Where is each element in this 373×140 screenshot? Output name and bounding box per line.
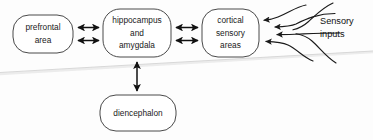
node-cortical-sensory-areas[interactable]: cortical sensory areas: [202, 9, 259, 57]
node-prefrontal-area-label-line2: area: [35, 35, 52, 45]
sensory-input-arrow-1: [264, 5, 306, 20]
sensory-inputs-caption-line1: Sensory: [320, 16, 354, 26]
node-cortical-sensory-areas-label-line3: areas: [220, 40, 241, 50]
diagram-canvas: prefrontal area hippocampus and amygdala…: [0, 0, 373, 140]
node-diencephalon[interactable]: diencephalon: [100, 95, 176, 131]
diagram-svg: prefrontal area hippocampus and amygdala…: [0, 0, 373, 140]
sensory-inputs-caption: Sensory inputs: [320, 16, 354, 39]
node-hippocampus-amygdala-label-line1: hippocampus: [112, 15, 161, 25]
sensory-inputs-caption-line2: inputs: [320, 29, 345, 39]
node-diencephalon-label-line1: diencephalon: [113, 108, 163, 118]
scan-fold-artifact: [0, 51, 373, 74]
node-cortical-sensory-areas-label-line2: sensory: [216, 28, 246, 38]
node-hippocampus-amygdala-label-line2: and: [130, 28, 144, 38]
node-prefrontal-area-label-line1: prefrontal: [25, 22, 60, 32]
node-hippocampus-amygdala-label-line3: amygdala: [119, 40, 155, 50]
node-hippocampus-amygdala[interactable]: hippocampus and amygdala: [103, 9, 171, 57]
node-cortical-sensory-areas-label-line1: cortical: [217, 15, 243, 25]
node-prefrontal-area[interactable]: prefrontal area: [13, 15, 73, 53]
